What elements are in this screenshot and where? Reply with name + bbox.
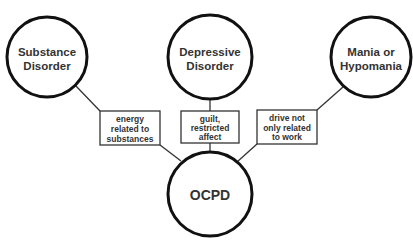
node-label-mania-2: Hypomania: [340, 60, 403, 72]
edge-label-mania-3: to work: [272, 132, 302, 142]
node-label-depressive-2: Disorder: [186, 60, 234, 72]
diagram-canvas: Substance Disorder Depressive Disorder M…: [0, 0, 413, 244]
edge-box-to-ocpd-left: [160, 145, 181, 161]
node-label-depressive-1: Depressive: [179, 46, 240, 58]
edge-label-substance-3: substances: [107, 134, 154, 144]
edge-box-to-ocpd-right: [237, 144, 257, 162]
edge-label-substance-2: related to: [111, 124, 149, 134]
node-label-substance-2: Disorder: [23, 60, 71, 72]
node-label-ocpd: OCPD: [190, 187, 230, 203]
edge-mania-to-box: [317, 87, 343, 110]
edge-label-mania-1: drive not: [269, 113, 305, 123]
edge-label-depressive-3: affect: [199, 132, 222, 142]
edge-label-substance-1: energy: [116, 114, 144, 124]
node-label-mania-1: Mania or: [347, 46, 395, 58]
edge-substance-to-box: [75, 85, 100, 111]
node-label-substance-1: Substance: [18, 46, 76, 58]
